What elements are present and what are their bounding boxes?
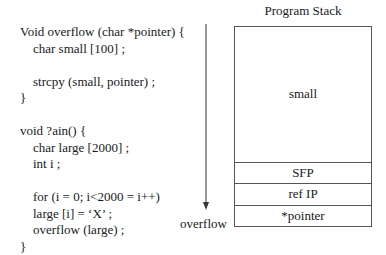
overflow-direction-label: overflow <box>180 216 227 232</box>
program-stack: small SFP ref IP *pointer <box>234 26 372 227</box>
code-line <box>20 173 185 190</box>
code-line: for (i = 0; i<2000 = i++) <box>20 189 185 206</box>
code-line: overflow (large) ; <box>20 222 185 239</box>
code-line: } <box>20 239 185 255</box>
code-listing: Void overflow (char *pointer) { char sma… <box>20 24 185 255</box>
code-line: } <box>20 90 185 107</box>
code-line <box>20 107 185 124</box>
stack-cell-sfp: SFP <box>235 162 371 184</box>
code-line: char small [100] ; <box>20 41 185 58</box>
code-line: void ?ain() { <box>20 123 185 140</box>
code-line: int i ; <box>20 156 185 173</box>
code-line: Void overflow (char *pointer) { <box>20 24 185 41</box>
code-line: char large [2000] ; <box>20 140 185 157</box>
code-line: strcpy (small, pointer) ; <box>20 74 185 91</box>
arrow-down-icon <box>205 24 207 210</box>
stack-cell-small: small <box>235 27 371 162</box>
code-line <box>20 57 185 74</box>
stack-cell-pointer: *pointer <box>235 205 371 227</box>
code-line: large [i] = ‘X’ ; <box>20 206 185 223</box>
stack-cell-ref-ip: ref IP <box>235 183 371 205</box>
stack-title: Program Stack <box>234 3 372 19</box>
